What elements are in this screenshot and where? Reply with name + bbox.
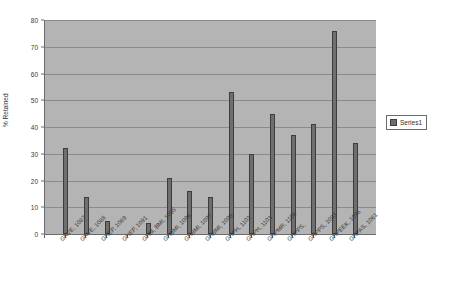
legend-label-series1: Series1 xyxy=(400,119,422,126)
gridline xyxy=(45,47,376,48)
y-axis-tick-label: 20 xyxy=(31,177,38,184)
bar xyxy=(332,31,337,234)
bar xyxy=(249,154,254,234)
bar-chart: % Retained 01020304050607080 GKVE, 1087G… xyxy=(0,0,461,295)
gridline xyxy=(45,181,376,182)
y-axis-tick-label: 40 xyxy=(31,124,38,131)
gridline xyxy=(45,20,376,21)
y-axis-tick-label: 60 xyxy=(31,70,38,77)
gridline xyxy=(45,74,376,75)
y-axis: 01020304050607080 xyxy=(0,20,44,234)
y-axis-tick-label: 70 xyxy=(31,43,38,50)
bar xyxy=(311,124,316,234)
y-axis-tick-label: 10 xyxy=(31,204,38,211)
gridline xyxy=(45,154,376,155)
gridline xyxy=(45,127,376,128)
plot-area xyxy=(44,20,376,235)
gridline xyxy=(45,100,376,101)
bar xyxy=(167,178,172,234)
y-axis-tick-label: 80 xyxy=(31,17,38,24)
y-axis-tick-label: 30 xyxy=(31,150,38,157)
legend: Series1 xyxy=(386,115,427,130)
legend-swatch-series1 xyxy=(390,119,397,126)
y-axis-tick-label: 50 xyxy=(31,97,38,104)
x-axis-labels: GKVE, 1087GKVE, 1088GHEP, 1089GHEP, 1091… xyxy=(0,236,461,295)
bar xyxy=(63,148,68,234)
